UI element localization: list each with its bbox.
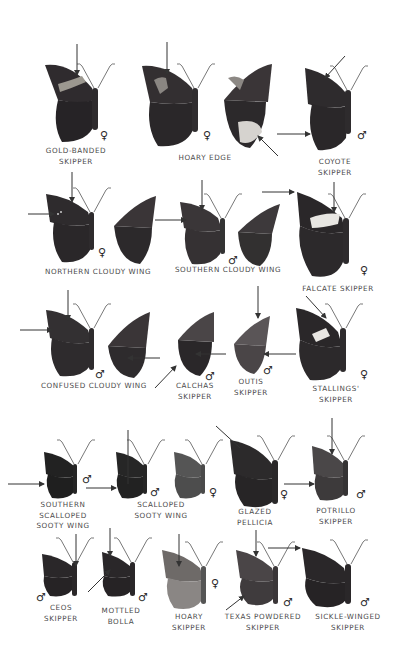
male-symbol-potrillo: ♂ (356, 489, 366, 500)
female-symbol-gold-banded: ♀ (100, 130, 108, 141)
male-symbol-mottled-bolla: ♂ (138, 592, 148, 603)
label-mottled-bolla: MOTTLED BOLLA (96, 606, 146, 627)
male-symbol-southern-cloudy-wing: ♂ (228, 255, 238, 266)
label-potrillo-skipper: POTRILLO SKIPPER (306, 506, 366, 527)
falcate-skipper-illustration (262, 182, 366, 277)
butterfly-illustrations (0, 0, 402, 668)
female-symbol-scalloped: ♀ (209, 487, 217, 498)
label-hoary-skipper: HOARY SKIPPER (164, 612, 214, 633)
male-symbol-ceos: ♂ (36, 592, 46, 603)
label-hoary-edge: HOARY EDGE (160, 153, 250, 164)
label-stallings-skipper: STALLINGS' SKIPPER (306, 384, 366, 405)
label-ceos-skipper: CEOS SKIPPER (36, 603, 86, 624)
skipper-identification-plate: GOLD-BANDED SKIPPER HOARY EDGE COYOTE SK… (0, 0, 402, 668)
gold-banded-skipper-illustration (45, 44, 115, 142)
male-symbol-scalloped: ♂ (150, 487, 160, 498)
male-symbol-southern-scalloped: ♂ (82, 474, 92, 485)
female-symbol-stallings: ♀ (360, 369, 368, 380)
hoary-edge-ventral-illustration (224, 64, 278, 156)
northern-cloudy-wing-ventral-illustration (114, 196, 156, 264)
label-sickle-winged-skipper: SICKLE-WINGED SKIPPER (310, 612, 386, 633)
label-northern-cloudy-wing: NORTHERN CLOUDY WING (36, 267, 160, 278)
confused-cloudy-wing-ventral-illustration (108, 312, 160, 378)
label-texas-powdered-skipper: TEXAS POWDERED SKIPPER (220, 612, 306, 633)
female-symbol-falcate: ♀ (360, 265, 368, 276)
male-symbol-sickle-winged: ♂ (360, 597, 370, 608)
coyote-skipper-illustration (277, 56, 368, 150)
label-coyote-skipper: COYOTE SKIPPER (300, 157, 370, 178)
sickle-winged-skipper-illustration (302, 540, 368, 607)
southern-cloudy-wing-ventral-illustration (238, 204, 280, 266)
label-southern-scalloped-sooty-wing: SOUTHERN SCALLOPED SOOTY WING (30, 500, 96, 532)
label-calchas-skipper: CALCHAS SKIPPER (170, 381, 220, 402)
label-gold-banded-skipper: GOLD-BANDED SKIPPER (34, 146, 118, 167)
female-symbol-hoary-edge: ♀ (203, 130, 211, 141)
southern-cloudy-wing-dorsal-illustration (155, 180, 242, 264)
label-outis-skipper: OUTIS SKIPPER (226, 377, 276, 398)
confused-cloudy-wing-dorsal-illustration (20, 290, 111, 376)
southern-scalloped-sooty-wing-illustration (8, 440, 95, 499)
hoary-skipper-illustration (162, 534, 223, 609)
stallings-skipper-illustration (296, 296, 363, 380)
male-symbol-outis: ♂ (263, 365, 273, 376)
mottled-bolla-illustration (88, 528, 152, 597)
label-falcate-skipper: FALCATE SKIPPER (290, 284, 386, 295)
male-symbol-coyote: ♂ (357, 130, 367, 141)
glazed-pellicia-illustration (216, 426, 314, 507)
male-symbol-texas-powdered: ♂ (283, 597, 293, 608)
male-symbol-calchas: ♂ (205, 371, 215, 382)
label-glazed-pellicia: GLAZED PELLICIA (226, 507, 284, 528)
ceos-skipper-illustration (42, 534, 94, 596)
female-symbol-glazed-pellicia: ♀ (280, 489, 288, 500)
male-symbol-confused-cloudy-wing: ♂ (95, 369, 105, 380)
female-symbol-hoary-skipper: ♀ (211, 578, 219, 589)
label-scalloped-sooty-wing: SCALLOPED SOOTY WING (128, 500, 194, 521)
female-symbol-northern-cloudy-wing: ♀ (98, 247, 106, 258)
label-confused-cloudy-wing: CONFUSED CLOUDY WING (34, 381, 154, 392)
